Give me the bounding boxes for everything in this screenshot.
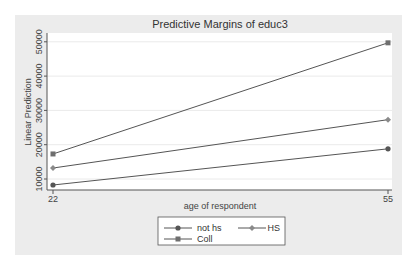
chart: Predictive Margins of educ3 100002000030… xyxy=(0,0,412,268)
legend: not hsHSColl xyxy=(158,217,285,245)
legend-label-coll: Coll xyxy=(197,234,213,244)
legend-marker-coll xyxy=(176,237,181,242)
y-tick-label: 10000 xyxy=(34,166,44,191)
plot-area xyxy=(47,33,392,190)
legend-marker-not-hs xyxy=(175,225,180,230)
data-point-coll xyxy=(51,151,56,156)
x-tick-label: 22 xyxy=(48,194,58,204)
legend-label-not-hs: not hs xyxy=(197,223,222,233)
y-tick-label: 50000 xyxy=(34,29,44,54)
y-axis-title: Linear Prediction xyxy=(23,78,33,146)
y-tick-label: 40000 xyxy=(34,64,44,89)
data-point-coll xyxy=(386,40,391,45)
chart-title: Predictive Margins of educ3 xyxy=(152,18,288,30)
y-tick-label: 30000 xyxy=(34,98,44,123)
x-tick-label: 55 xyxy=(383,194,393,204)
data-point-not-hs xyxy=(50,182,55,187)
x-axis-title: age of respondent xyxy=(184,201,257,211)
legend-label-hs: HS xyxy=(267,223,280,233)
data-point-not-hs xyxy=(385,146,390,151)
y-tick-label: 20000 xyxy=(34,132,44,157)
